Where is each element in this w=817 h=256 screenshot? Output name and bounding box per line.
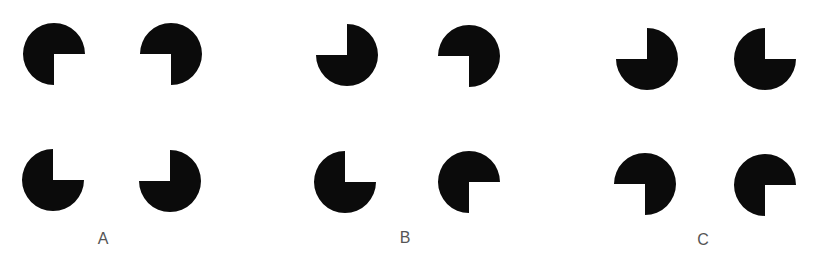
pacman-icon — [22, 149, 84, 211]
pacman-icon — [140, 23, 202, 85]
pacman-icon — [139, 150, 201, 212]
pacman-icon — [614, 153, 676, 215]
panel-a — [22, 23, 202, 212]
kanizsa-figure — [0, 0, 817, 256]
pacman-icon — [316, 24, 378, 86]
pacman-icon — [616, 28, 678, 90]
pacman-icon — [438, 25, 500, 87]
panel-label-c: C — [693, 232, 713, 248]
panel-c — [614, 28, 796, 216]
panel-b — [314, 24, 500, 213]
pacman-icon — [314, 151, 376, 213]
panel-label-b: B — [395, 230, 415, 246]
pacman-icon — [438, 151, 500, 213]
pacman-icon — [734, 28, 796, 90]
pacman-icon — [23, 23, 85, 85]
pacman-icon — [734, 154, 796, 216]
panel-label-a: A — [93, 231, 113, 247]
